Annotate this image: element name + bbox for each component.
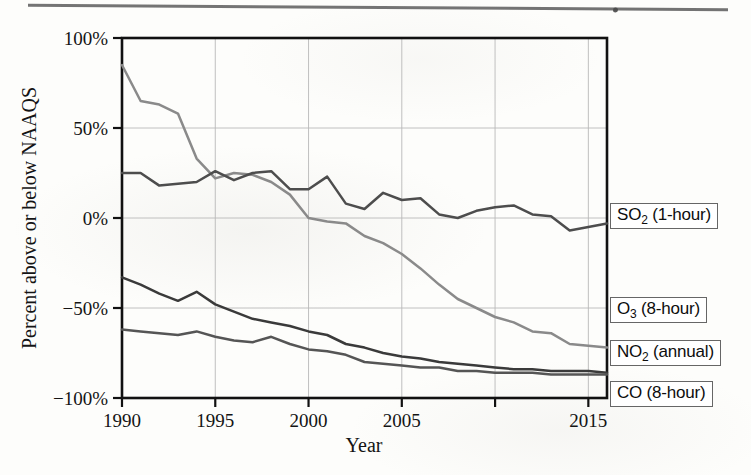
data-series-group	[122, 65, 607, 375]
data-line-o3	[122, 65, 607, 348]
x-tick-label: 2005	[383, 410, 421, 431]
x-tick-label: 2000	[290, 410, 328, 431]
legend-label-co: CO (8-hour)	[617, 383, 706, 402]
y-axis-title: Percent above or below NAAQS	[18, 87, 40, 349]
data-line-no2	[122, 277, 607, 372]
y-tick-label: 50%	[73, 118, 108, 139]
y-tick-labels: 100%50%0%−50%−100%	[53, 28, 108, 409]
data-line-co	[122, 330, 607, 375]
legend-item-so2[interactable]: SO2 (1-hour)	[610, 203, 718, 229]
legend-label-o3: O3 (8-hour)	[617, 299, 700, 318]
x-tick-label: 1990	[103, 410, 141, 431]
legend-label-so2: SO2 (1-hour)	[617, 205, 711, 224]
axis-ticks	[113, 38, 588, 407]
x-tick-labels: 19901995200020052015	[103, 410, 607, 431]
legend-item-co[interactable]: CO (8-hour)	[610, 381, 713, 407]
x-tick-label: 2015	[569, 410, 607, 431]
y-tick-label: −50%	[62, 298, 108, 319]
x-tick-label: 1995	[196, 410, 234, 431]
y-tick-label: 100%	[64, 28, 109, 49]
y-tick-label: 0%	[83, 208, 109, 229]
legend-label-no2: NO2 (annual)	[617, 342, 714, 361]
y-tick-label: −100%	[53, 388, 108, 409]
grid-lines	[122, 38, 607, 398]
chart-figure: 100%50%0%−50%−100% 19901995200020052015 …	[0, 0, 751, 475]
x-axis-title: Year	[346, 434, 383, 456]
legend-item-o3[interactable]: O3 (8-hour)	[610, 297, 707, 323]
data-line-so2	[122, 171, 607, 230]
legend-item-no2[interactable]: NO2 (annual)	[610, 340, 721, 366]
